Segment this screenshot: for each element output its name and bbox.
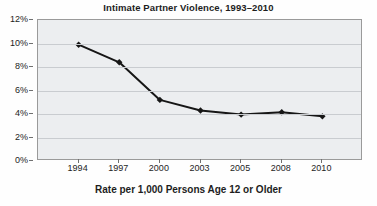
- data-point-marker: [197, 107, 203, 113]
- y-tick-label: 12%: [10, 14, 28, 24]
- y-tick-label: 10%: [10, 38, 28, 48]
- x-axis-title: Rate per 1,000 Persons Age 12 or Older: [0, 184, 377, 195]
- chart-title: Intimate Partner Violence, 1993–2010: [0, 2, 377, 13]
- series-polyline: [79, 45, 323, 117]
- gridline: [38, 91, 361, 92]
- gridline: [38, 67, 361, 68]
- x-tick-label: 1994: [68, 163, 88, 173]
- y-axis: 0%2%4%6%8%10%12%: [0, 19, 33, 160]
- x-tick-label: 2008: [271, 163, 291, 173]
- y-tick-mark: [29, 90, 33, 91]
- x-tick-label: 1997: [108, 163, 128, 173]
- x-tick-label: 2010: [311, 163, 331, 173]
- y-tick-mark: [29, 113, 33, 114]
- y-tick-label: 6%: [15, 85, 28, 95]
- x-tick-label: 2003: [189, 163, 209, 173]
- y-tick-label: 2%: [15, 132, 28, 142]
- x-tick-label: 2000: [149, 163, 169, 173]
- y-tick-mark: [29, 19, 33, 20]
- plot-area: [37, 19, 362, 160]
- gridline: [38, 114, 361, 115]
- gridline: [38, 138, 361, 139]
- chart-figure: Intimate Partner Violence, 1993–2010 0%2…: [0, 0, 377, 206]
- y-tick-label: 4%: [15, 108, 28, 118]
- gridline: [38, 44, 361, 45]
- y-tick-mark: [29, 66, 33, 67]
- data-point-marker: [75, 41, 81, 47]
- y-tick-mark: [29, 160, 33, 161]
- y-tick-mark: [29, 137, 33, 138]
- y-tick-label: 8%: [15, 61, 28, 71]
- y-tick-label: 0%: [15, 155, 28, 165]
- y-tick-mark: [29, 43, 33, 44]
- x-tick-label: 2005: [230, 163, 250, 173]
- x-axis: 1994199720002003200520082010: [37, 163, 362, 177]
